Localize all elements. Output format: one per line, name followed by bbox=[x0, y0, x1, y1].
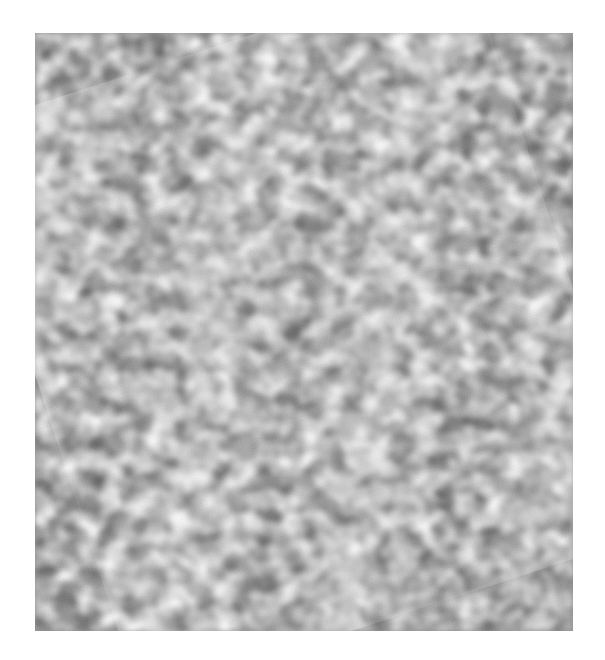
microscopy-image bbox=[35, 33, 573, 631]
band-highlight bbox=[35, 33, 573, 631]
texture-canvas bbox=[35, 33, 573, 631]
